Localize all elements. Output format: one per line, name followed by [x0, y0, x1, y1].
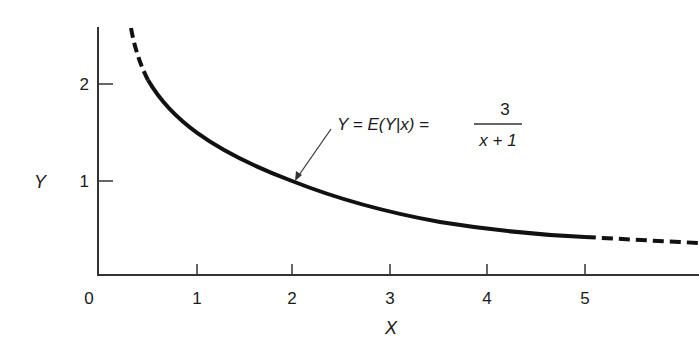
equation-numerator: 3 [500, 100, 509, 119]
equation-label: Y = E(Y|x) = [337, 115, 429, 134]
regression-curve-chart: 2 1 0 1 2 3 4 5 Y X Y = E(Y|x) = 3 x + 1 [0, 0, 699, 358]
y-tick-label-1: 1 [80, 172, 89, 191]
curve-dashed-start [131, 28, 148, 80]
x-axis-label: X [384, 318, 398, 338]
equation-denominator: x + 1 [478, 131, 516, 150]
x-tick-label-5: 5 [580, 289, 589, 308]
annotation-arrow [297, 129, 331, 178]
x-tick-label-2: 2 [287, 289, 296, 308]
x-tick-label-1: 1 [192, 289, 201, 308]
y-axis-label: Y [34, 172, 48, 192]
regression-curve [148, 80, 585, 237]
curve-dashed-end [585, 237, 699, 243]
x-tick-label-4: 4 [482, 289, 491, 308]
x-tick-label-0: 0 [84, 289, 93, 308]
x-ticks [197, 264, 585, 275]
y-tick-label-2: 2 [80, 75, 89, 94]
x-tick-label-3: 3 [385, 289, 394, 308]
